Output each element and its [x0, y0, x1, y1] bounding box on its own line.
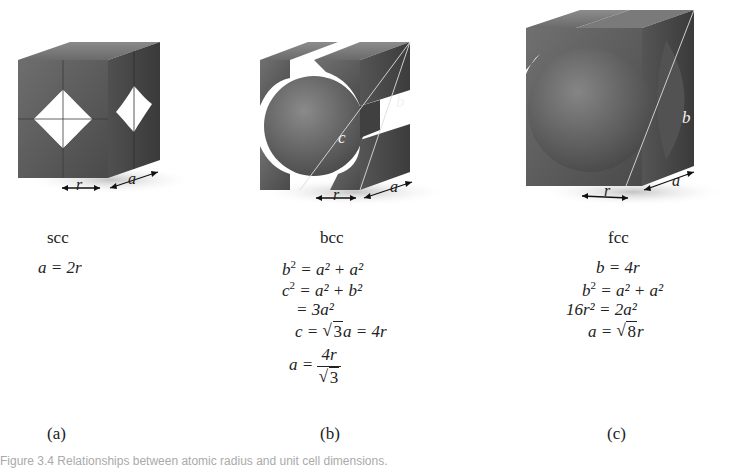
- scc-edge-label: a: [128, 170, 136, 188]
- panel-letter-c: (c): [607, 424, 626, 444]
- bcc-equation-4: c = 3a = 4r: [295, 322, 387, 342]
- sqrt-symbol: 8: [616, 322, 637, 342]
- fcc-equation-2: b2 = a² + a²: [582, 279, 663, 301]
- fcc-equation-3: 16r² = 2a²: [566, 300, 637, 320]
- fcc-radius-label: r: [604, 182, 610, 200]
- figure-caption: Figure 3.4 Relationships between atomic …: [0, 454, 388, 468]
- bcc-cube-diagram: [240, 20, 460, 220]
- bcc-radius-label: r: [333, 186, 339, 204]
- fcc-equation-4: a = 8r: [588, 322, 644, 342]
- fcc-diagonal-label: b: [682, 108, 691, 128]
- scc-equation: a = 2r: [38, 258, 82, 278]
- bcc-structure-label: bcc: [320, 228, 344, 248]
- bcc-equation-3: = 3a²: [296, 300, 334, 320]
- panel-letter-b: (b): [320, 424, 340, 444]
- bcc-equation-1: b2 = a² + a²: [282, 258, 363, 280]
- scc-cube-diagram: [0, 20, 200, 220]
- bcc-face-diagonal-label: b: [396, 92, 405, 112]
- bcc-equation-5: a = 4r 3: [289, 345, 341, 388]
- bcc-edge-label: a: [390, 178, 398, 196]
- scc-radius-label: r: [76, 176, 82, 194]
- bcc-equation-2: c2 = a² + b²: [282, 279, 362, 301]
- scc-structure-label: scc: [47, 228, 69, 248]
- fcc-cube-diagram: [518, 0, 731, 220]
- sqrt-symbol: 3: [323, 322, 344, 342]
- fcc-equation-1: b = 4r: [596, 258, 640, 278]
- fcc-structure-label: fcc: [608, 228, 629, 248]
- fcc-edge-label: a: [672, 172, 680, 190]
- sqrt-symbol: 3: [319, 368, 340, 388]
- fraction: 4r 3: [317, 345, 340, 388]
- bcc-body-diagonal-label: c: [338, 128, 346, 148]
- panel-letter-a: (a): [47, 424, 66, 444]
